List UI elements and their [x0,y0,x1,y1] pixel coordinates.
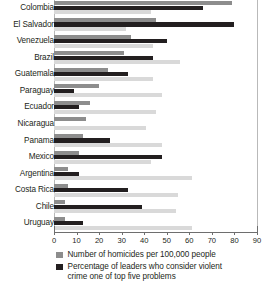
bar-row: Panama [0,133,270,150]
category-label: Colombia [0,0,54,17]
bar-group [54,83,258,100]
x-axis-tick-label: 30 [110,236,134,245]
legend-label-homicides: Number of homicides per 100,000 people [68,250,216,259]
bar-row: Mexico [0,149,270,166]
bar-row: Uruguay [0,215,270,232]
bar-row: Chile [0,199,270,216]
category-label: Ecuador [0,99,54,116]
chart-legend: Number of homicides per 100,000 people P… [0,250,270,284]
x-axis-line [54,232,257,233]
x-axis-tick [54,232,55,235]
bar-segment [54,1,232,5]
bar-row: Colombia [0,0,270,17]
x-axis-tick-label: 40 [132,236,156,245]
x-axis-tick-label: 0 [42,236,66,245]
x-axis-tick [212,232,213,235]
legend-item-homicides: Number of homicides per 100,000 people [0,250,270,259]
bar-segment [54,60,180,64]
bar-segment [54,172,79,176]
bar-group [54,116,258,133]
bar-group [54,66,258,83]
bar-group [54,182,258,199]
category-label: Panama [0,133,54,150]
bar-segment [54,226,192,230]
bar-segment [54,167,68,171]
bar-row: Guatemala [0,66,270,83]
x-axis-tick-label: 80 [222,236,246,245]
bar-segment [54,110,156,114]
bar-segment [54,93,162,97]
category-label: Nicaragua [0,116,54,133]
bar-segment [54,138,110,142]
bar-segment [54,221,83,225]
x-axis-tick [144,232,145,235]
x-axis-tick-label: 10 [65,236,89,245]
bar-segment [54,126,146,130]
x-axis-tick-label: 60 [177,236,201,245]
legend-swatch-homicides-icon [56,252,63,259]
bar-segment [54,27,126,31]
category-label: Mexico [0,149,54,166]
bar-row: Paraguay [0,83,270,100]
bar-segment [54,84,99,88]
bar-segment [54,176,192,180]
bar-segment [54,134,83,138]
x-axis-tick [257,232,258,235]
bar-group [54,166,258,183]
category-label: Venezuela [0,33,54,50]
bar-segment [54,200,65,204]
bar-segment [54,39,167,43]
bar-group [54,215,258,232]
bar-segment [54,184,68,188]
bar-segment [54,105,79,109]
bar-group [54,17,258,34]
bar-group [54,199,258,216]
x-axis-tick-label: 20 [87,236,111,245]
bar-segment [54,117,86,121]
bar-rows: ColombiaEl SalvadorVenezuelaBrazilGuatem… [0,0,270,232]
bar-group [54,133,258,150]
x-axis-tick [234,232,235,235]
bar-segment [54,89,74,93]
bar-row: Venezuela [0,33,270,50]
bar-segment [54,188,128,192]
bar-segment [54,72,128,76]
bar-row: Nicaragua [0,116,270,133]
x-axis-tick [122,232,123,235]
bar-segment [54,51,124,55]
bar-segment [54,151,79,155]
bar-segment [54,155,162,159]
bar-segment [54,160,151,164]
bar-segment [54,10,151,14]
bar-segment [54,209,176,213]
bar-group [54,50,258,67]
bar-group [54,0,258,17]
category-label: Argentina [0,166,54,183]
x-axis-tick-label: 50 [155,236,179,245]
x-axis-tick [99,232,100,235]
bar-row: El Salvador [0,17,270,34]
bar-row: Ecuador [0,99,270,116]
category-label: Guatemala [0,66,54,83]
bar-segment [54,101,90,105]
bar-segment [54,143,162,147]
x-axis-tick [167,232,168,235]
bar-segment [54,217,65,221]
bar-segment [54,6,203,10]
bar-row: Brazil [0,50,270,67]
category-label: Brazil [0,50,54,67]
legend-swatch-violent-crime-icon [56,264,63,271]
bar-segment [54,77,153,81]
x-axis-tick [189,232,190,235]
x-axis-tick [77,232,78,235]
bar-row: Costa Rica [0,182,270,199]
legend-label-violent-crime: Percentage of leaders who consider viole… [68,262,222,281]
bar-segment [54,44,153,48]
category-label: Chile [0,199,54,216]
category-label: Uruguay [0,215,54,232]
bar-group [54,149,258,166]
category-label: Costa Rica [0,182,54,199]
bar-segment [54,205,142,209]
bar-segment [54,22,234,26]
bar-segment [54,35,131,39]
